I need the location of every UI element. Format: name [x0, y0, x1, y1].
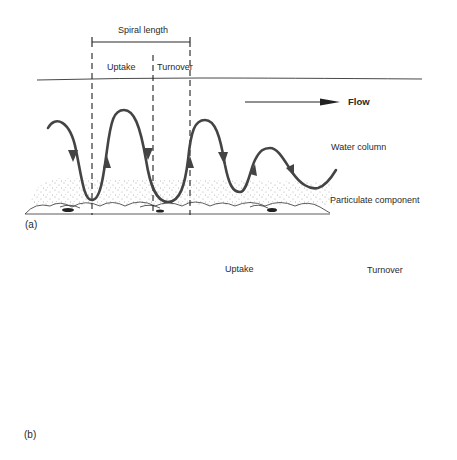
particulate-component-label: Particulate component: [330, 196, 420, 205]
uptake-label-b: Uptake: [225, 265, 254, 274]
panel-a-label: (a): [25, 220, 37, 230]
water-column-label: Water column: [331, 143, 386, 152]
spiral-length-bracket: [92, 37, 190, 47]
panel-b-label: (b): [24, 430, 36, 440]
turnover-label-a: Turnover: [157, 63, 193, 72]
particulate-zone: [30, 178, 335, 205]
panel-a: [25, 37, 422, 215]
nutrient-spiral-diagram: [0, 0, 457, 460]
flow-arrow-icon: [245, 99, 340, 106]
water-surface-line: [37, 78, 422, 80]
uptake-label-a: Uptake: [107, 63, 136, 72]
spiral-length-label: Spiral length: [118, 26, 168, 35]
flow-label: Flow: [348, 97, 370, 107]
turnover-label-b: Turnover: [367, 266, 403, 275]
